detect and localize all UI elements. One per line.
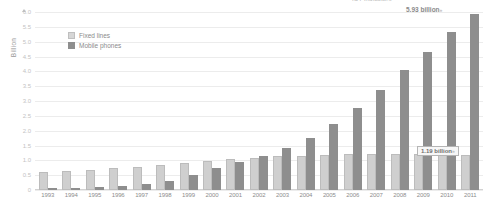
legend: Fixed lines Mobile phones [68,32,121,49]
bar-mobile-phones[interactable] [282,148,291,190]
x-axis-tick-label: 1996 [106,192,129,198]
x-axis-tick-label: 2011 [458,192,481,198]
y-axis-tick-label: 1.0 [23,157,31,163]
bar-mobile-phones[interactable] [142,184,151,190]
bar-fixed-lines[interactable] [461,155,470,190]
bar-fixed-lines[interactable] [438,155,447,190]
x-axis-tick-label: 2004 [294,192,317,198]
callout-mobile-2011-mark: » [440,7,443,13]
x-axis-tick-label: 2001 [224,192,247,198]
bar-mobile-phones[interactable] [400,70,409,190]
bar-mobile-phones[interactable] [353,108,362,190]
x-axis-tick-label: 1994 [59,192,82,198]
bar-mobile-phones[interactable] [165,181,174,190]
x-axis-tick-label: 2010 [435,192,458,198]
bar-mobile-phones[interactable] [235,162,244,190]
y-axis-tick-label: 0 [28,187,31,193]
legend-item-fixed-lines[interactable]: Fixed lines [68,32,121,39]
x-axis-tick-label: 2002 [247,192,270,198]
bar-group [247,12,270,190]
bar-mobile-phones[interactable] [470,14,479,190]
x-axis-tick-label: 2009 [412,192,435,198]
bar-group [200,12,223,190]
callout-mobile-2011: 5.93 billion» [406,6,442,13]
bar-group [435,12,458,190]
y-axis-tick-label: 4.5 [23,54,31,60]
bar-group [130,12,153,190]
bar-fixed-lines[interactable] [391,154,400,190]
bar-fixed-lines[interactable] [86,170,95,190]
legend-label-fixed-lines: Fixed lines [79,32,110,39]
x-axis-tick-label: 1998 [153,192,176,198]
y-axis-tick-label: 5.5 [23,24,31,30]
bar-fixed-lines[interactable] [414,154,423,190]
y-axis-tick-label: 3.0 [23,98,31,104]
bar-group [294,12,317,190]
callout-fixed-2011-text: 1.19 billion [421,148,452,154]
chart-container: ICT indicators Billion 00.51.01.52.02.53… [0,0,486,219]
bar-group [318,12,341,190]
y-axis-tick-label: 6.0 [23,9,31,15]
bar-group [36,12,59,190]
y-axis-tick-label: 2.5 [23,113,31,119]
y-axis-tick-label: 4.0 [23,68,31,74]
x-axis-tick-label: 1993 [36,192,59,198]
bar-mobile-phones[interactable] [423,52,432,190]
bar-group [177,12,200,190]
bar-mobile-phones[interactable] [189,175,198,190]
x-axis-tick-label: 1997 [130,192,153,198]
y-axis-tick-label: 1.5 [23,143,31,149]
bar-mobile-phones[interactable] [118,186,127,190]
bar-fixed-lines[interactable] [226,159,235,190]
bar-fixed-lines[interactable] [62,171,71,190]
x-axis-tick-label: 2003 [271,192,294,198]
bar-fixed-lines[interactable] [320,155,329,190]
bar-group [224,12,247,190]
legend-label-mobile-phones: Mobile phones [79,42,121,49]
bar-fixed-lines[interactable] [133,167,142,190]
legend-swatch-icon-fixed-lines [68,32,75,39]
bar-fixed-lines[interactable] [297,156,306,190]
bar-mobile-phones[interactable] [376,90,385,190]
callout-fixed-2011-mark: » [452,148,455,154]
bar-mobile-phones[interactable] [259,156,268,190]
bar-fixed-lines[interactable] [156,165,165,190]
x-axis-tick-label: 2006 [341,192,364,198]
bar-fixed-lines[interactable] [109,168,118,190]
legend-item-mobile-phones[interactable]: Mobile phones [68,42,121,49]
x-axis-labels: 1993199419951996199719981999200020012002… [35,192,483,198]
bar-group [388,12,411,190]
x-axis-tick-label: 1995 [83,192,106,198]
x-axis-tick-label: 1999 [177,192,200,198]
bar-group [271,12,294,190]
bar-fixed-lines[interactable] [367,154,376,190]
y-axis-tick-label: 0.5 [23,172,31,178]
bar-fixed-lines[interactable] [203,161,212,190]
bar-mobile-phones[interactable] [306,138,315,191]
bar-mobile-phones[interactable] [48,188,57,190]
bar-mobile-phones[interactable] [212,168,221,190]
callout-mobile-2011-text: 5.93 billion [406,6,440,13]
bar-mobile-phones[interactable] [329,124,338,190]
bar-fixed-lines[interactable] [273,156,282,190]
y-axis-tick-label: 5.0 [23,39,31,45]
bar-fixed-lines[interactable] [250,158,259,190]
y-axis-tick-label: 2.0 [23,128,31,134]
bar-group [365,12,388,190]
bar-fixed-lines[interactable] [344,154,353,190]
bar-fixed-lines[interactable] [180,163,189,190]
bar-fixed-lines[interactable] [39,172,48,190]
bar-group [458,12,481,190]
bar-mobile-phones[interactable] [71,188,80,190]
bar-group [341,12,364,190]
bar-mobile-phones[interactable] [95,187,104,190]
x-axis-tick-label: 2007 [365,192,388,198]
bar-mobile-phones[interactable] [447,32,456,190]
legend-swatch-icon-mobile-phones [68,42,75,49]
top-note: ICT indicators [352,0,392,3]
y-axis-title: Billion [10,22,17,74]
x-axis-tick-label: 2000 [200,192,223,198]
gridline: 0 [35,190,483,191]
x-axis-tick-label: 2005 [318,192,341,198]
callout-fixed-2011: 1.19 billion» [417,146,459,156]
